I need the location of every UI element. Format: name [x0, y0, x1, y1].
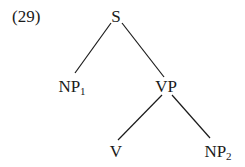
node-s: S — [111, 8, 120, 25]
node-v: V — [110, 143, 122, 160]
node-np2: NP2 — [204, 143, 231, 160]
node-np2-label: NP — [204, 142, 226, 161]
edge-vp-v — [118, 95, 162, 140]
node-np1-subscript: 1 — [80, 85, 86, 97]
node-np1-label: NP — [58, 77, 80, 96]
node-s-label: S — [111, 7, 120, 26]
node-v-label: V — [110, 142, 122, 161]
node-np2-subscript: 2 — [226, 150, 232, 162]
edge-s-np1 — [75, 23, 111, 73]
edge-s-vp — [122, 23, 164, 77]
node-vp: VP — [155, 78, 177, 95]
edge-vp-np2 — [172, 95, 210, 138]
node-vp-label: VP — [155, 77, 177, 96]
node-np1: NP1 — [58, 78, 85, 95]
